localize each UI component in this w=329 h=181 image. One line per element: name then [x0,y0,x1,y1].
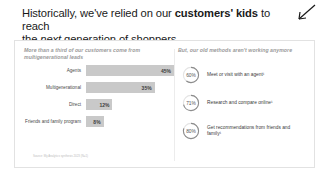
list-item: 60% Meet or visit with an agent¹ [182,63,308,87]
bar-value: 8% [93,119,103,125]
bar-label: Agents [24,68,86,73]
bar-track: 35% [86,82,174,93]
title-text-emphasis: customers' kids [175,7,258,19]
stat-label: Research and compare online¹ [207,100,273,106]
slide: Historically, we've relied on our custom… [0,0,329,181]
bar-label: Direct [24,102,86,107]
bar-value: 45% [161,68,174,74]
bar-fill: 45% [86,65,174,76]
bar-row: Direct 12% [24,99,174,110]
donut-chart-icon: 60% [182,66,200,84]
stat-label: Meet or visit with an agent¹ [207,72,264,78]
bar-value: 35% [142,85,155,91]
list-item: 80% Get recommendations from friends and… [182,119,308,143]
bar-fill: 8% [86,116,104,127]
bar-fill: 35% [86,82,155,93]
bar-chart: Agents 45% Multigenerational 35% [24,65,174,133]
bar-value: 12% [99,102,112,108]
stat-label: Get recommendations from friends and fam… [207,125,303,137]
list-item: 71% Research and compare online¹ [182,91,308,115]
stat-list: 60% Meet or visit with an agent¹ 71% Res… [182,63,308,147]
bar-track: 8% [86,116,174,127]
arrow-down-left-icon [295,3,317,23]
bar-row: Agents 45% [24,65,174,76]
left-panel: More than a third of our customers come … [24,47,174,163]
donut-chart-icon: 80% [182,122,200,140]
bar-label: Friends and family program [24,119,86,124]
left-panel-heading: More than a third of our customers come … [24,47,174,60]
panel-divider [174,49,175,161]
bar-label: Multigenerational [24,85,86,90]
bar-row: Multigenerational 35% [24,82,174,93]
donut-chart-icon: 71% [182,94,200,112]
donut-value: 71% [182,94,200,112]
title-text-part-1: Historically, we've relied on our [22,7,175,19]
content-card: More than a third of our customers come … [14,40,315,168]
left-panel-source: Source: My Analytics synthesis 2023 (N=1… [33,154,88,158]
bar-row: Friends and family program 8% [24,116,174,127]
right-panel-heading: But, our old methods aren't working anym… [178,47,308,54]
donut-value: 80% [182,122,200,140]
bar-track: 12% [86,99,174,110]
bar-track: 45% [86,65,174,76]
right-panel: But, our old methods aren't working anym… [178,47,308,163]
bar-fill: 12% [86,99,112,110]
donut-value: 60% [182,66,200,84]
